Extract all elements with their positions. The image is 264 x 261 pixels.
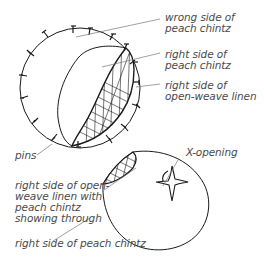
label-wrong-side-chintz: wrong side of peach chintz — [165, 12, 235, 34]
bottom-fabric-circle — [100, 144, 209, 250]
diagram-canvas: wrong side of peach chintz right side of… — [0, 0, 264, 261]
label-right-side-linen: right side of open-weave linen — [165, 80, 257, 102]
label-right-side-chintz: right side of peach chintz — [165, 49, 231, 71]
label-pins: pins — [15, 150, 36, 161]
top-fabric-circle — [19, 26, 140, 162]
label-right-side-peach-chintz: right side of peach chintz — [15, 238, 146, 249]
label-linen-showing-through: right side of open- weave linen with pea… — [15, 180, 109, 224]
label-x-opening: X-opening — [186, 147, 238, 158]
